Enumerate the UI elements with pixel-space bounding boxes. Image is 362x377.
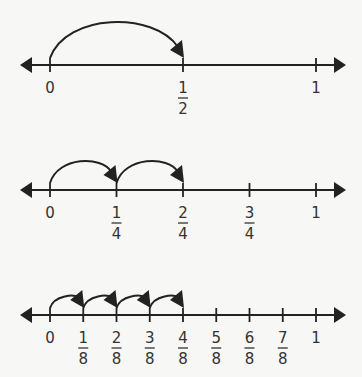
tick-label: 28 [112,329,122,368]
denominator: 8 [211,350,221,368]
svg-text:0: 0 [45,204,55,222]
denominator: 2 [178,100,188,118]
numerator: 1 [78,329,88,347]
arrowhead-icon [170,165,184,183]
svg-text:0: 0 [45,79,55,97]
left-arrow-icon [20,57,32,73]
jump-arc [50,161,112,183]
svg-text:1: 1 [311,329,321,347]
denominator: 8 [78,350,88,368]
arrowhead-icon [137,290,151,308]
tick-label: 34 [245,204,255,243]
number-line-diagram: 0121014243410182838485868781 [0,0,362,377]
arrowhead-icon [104,165,118,183]
tick-label: 38 [145,329,155,368]
tick-label: 1 [311,79,321,97]
numerator: 7 [278,329,288,347]
tick-label: 48 [178,329,188,368]
svg-text:1: 1 [311,79,321,97]
numerator: 6 [245,329,255,347]
tick-label: 1 [311,204,321,222]
tick-label: 12 [178,79,188,118]
svg-text:0: 0 [45,329,55,347]
numerator: 1 [178,79,188,97]
denominator: 4 [112,225,122,243]
right-arrow-icon [334,182,346,198]
numerator: 3 [245,204,255,222]
number-line-eighths: 0182838485868781 [20,290,346,368]
tick-label: 24 [178,204,188,243]
denominator: 8 [112,350,122,368]
tick-label: 0 [45,204,55,222]
left-arrow-icon [20,182,32,198]
jump-arc [50,22,178,58]
denominator: 4 [178,225,188,243]
arrowhead-icon [104,290,118,308]
numerator: 3 [145,329,155,347]
tick-label: 0 [45,329,55,347]
denominator: 8 [178,350,188,368]
jump-arc [117,161,179,183]
left-arrow-icon [20,307,32,323]
tick-label: 14 [112,204,122,243]
svg-text:1: 1 [311,204,321,222]
tick-label: 58 [211,329,221,368]
number-line-halves: 0121 [20,22,346,118]
denominator: 8 [278,350,288,368]
denominator: 8 [245,350,255,368]
number-line-fourths: 01424341 [20,161,346,243]
right-arrow-icon [334,57,346,73]
tick-label: 78 [278,329,288,368]
tick-label: 1 [311,329,321,347]
denominator: 8 [145,350,155,368]
tick-label: 0 [45,79,55,97]
numerator: 2 [178,204,188,222]
numerator: 1 [112,204,122,222]
numerator: 2 [112,329,122,347]
arrowhead-icon [170,40,184,58]
numerator: 4 [178,329,188,347]
tick-label: 68 [245,329,255,368]
right-arrow-icon [334,307,346,323]
numerator: 5 [211,329,221,347]
arrowhead-icon [170,290,184,308]
denominator: 4 [245,225,255,243]
tick-label: 18 [78,329,88,368]
arrowhead-icon [70,290,84,308]
